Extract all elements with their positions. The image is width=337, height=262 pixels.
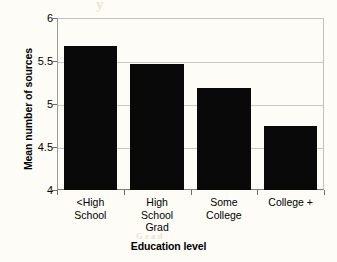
y-tick-mark xyxy=(51,61,57,62)
y-tick-label: 6 xyxy=(13,12,53,24)
x-tick-label: <High School xyxy=(57,196,124,221)
y-tick-mark xyxy=(51,147,57,148)
x-tick-mark xyxy=(124,190,125,195)
x-tick-label: College + xyxy=(257,196,324,209)
y-tick-label: 5 xyxy=(13,98,53,110)
y-tick-label: 4 xyxy=(13,184,53,196)
y-tick-label: 5.5 xyxy=(13,55,53,67)
y-tick-mark xyxy=(51,104,57,105)
x-tick-mark xyxy=(257,190,258,195)
scan-artifact-top: y xyxy=(96,0,108,13)
x-tick-label: High School Grad xyxy=(124,196,191,234)
y-tick-mark xyxy=(51,18,57,19)
x-tick-mark xyxy=(324,190,325,195)
bar-chart-figure: y ent tion Grad Mean number of sources 4… xyxy=(0,0,337,262)
bar[interactable] xyxy=(130,64,183,190)
y-tick-label: 4.5 xyxy=(13,141,53,153)
bar[interactable] xyxy=(264,126,317,190)
x-tick-label: Some College xyxy=(191,196,258,221)
bar[interactable] xyxy=(197,88,250,190)
x-axis-title: Education level xyxy=(0,240,337,252)
x-tick-mark xyxy=(191,190,192,195)
x-tick-mark xyxy=(57,190,58,195)
bar[interactable] xyxy=(64,46,117,190)
